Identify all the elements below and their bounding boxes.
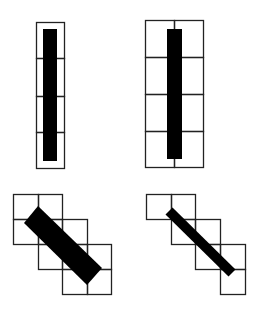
line-segment-bar — [169, 211, 232, 273]
line-segment-bar — [167, 29, 182, 159]
line-segment-bar — [43, 29, 57, 161]
panel-vertical-single-column — [37, 23, 65, 169]
grid-cell — [221, 270, 246, 295]
panel-diagonal-thin — [147, 195, 246, 295]
panel-vertical-two-column — [146, 21, 204, 168]
rasterization-diagram — [0, 0, 260, 310]
panel-diagonal-thick — [14, 195, 112, 295]
